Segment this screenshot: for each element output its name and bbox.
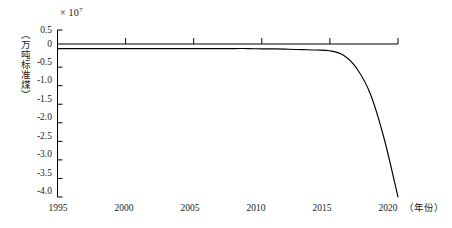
y-tick-label: -4.0 xyxy=(22,186,52,196)
y-tick-label: -1.5 xyxy=(22,94,52,104)
x-tick-label: 1995 xyxy=(33,203,83,214)
x-axis-title: （年份） xyxy=(404,203,444,214)
x-tick-label: 2005 xyxy=(165,203,215,214)
x-tick-label: 2010 xyxy=(231,203,281,214)
axis-spines xyxy=(58,30,399,197)
y-tick-label: 0.5 xyxy=(22,25,52,35)
y-tick-label: -0.5 xyxy=(22,57,52,67)
y-axis-ticks xyxy=(58,30,63,197)
y-axis-multiplier-exponent: 7 xyxy=(79,6,83,14)
x-axis-ticks xyxy=(58,38,399,44)
y-tick-label: -2.5 xyxy=(22,131,52,141)
x-tick-label: 2000 xyxy=(99,203,149,214)
y-axis-multiplier-base: × 10 xyxy=(60,7,79,18)
y-tick-label: -1.0 xyxy=(22,75,52,85)
y-tick-label: -2.0 xyxy=(22,112,52,122)
chart-figure: × 107 （万吨标准煤） 0.5 0 -0.5 -1.0 -1.5 -2.0 … xyxy=(0,0,452,228)
y-tick-label: -3.5 xyxy=(22,168,52,178)
plot-area xyxy=(0,0,452,228)
x-tick-label: 2015 xyxy=(297,203,347,214)
y-tick-label: -3.0 xyxy=(22,149,52,159)
y-axis-multiplier: × 107 xyxy=(60,6,83,18)
data-series-line xyxy=(58,49,399,197)
y-tick-label: 0 xyxy=(22,39,52,49)
